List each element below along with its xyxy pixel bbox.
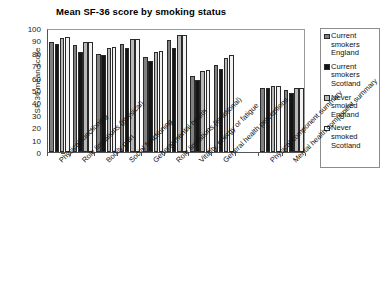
y-axis: SF-36 mean score 1009080706050403020100 [18, 24, 44, 158]
chart-title: Mean SF-36 score by smoking status [56, 6, 226, 17]
bar [73, 45, 78, 152]
bar-group [48, 30, 71, 152]
y-tick-label: 50 [32, 87, 41, 96]
x-tick-mark [258, 153, 259, 156]
x-tick-mark [164, 153, 165, 156]
bar [60, 38, 65, 152]
bar [49, 42, 54, 152]
y-tick-label: 90 [32, 37, 41, 46]
bar [55, 44, 60, 152]
legend-label: Never smoked Scotland [331, 124, 377, 150]
x-tick-mark [211, 153, 212, 156]
x-tick-mark [47, 153, 48, 156]
y-tick-label: 0 [37, 149, 41, 158]
y-tick-label: 80 [32, 49, 41, 58]
x-tick-mark [94, 153, 95, 156]
y-tick-label: 70 [32, 62, 41, 71]
legend-swatch-icon [324, 34, 330, 40]
bar [276, 86, 281, 152]
bar [65, 37, 70, 152]
bar [120, 44, 125, 152]
bar-group [259, 30, 282, 152]
x-tick-mark [235, 153, 236, 156]
bar [167, 40, 172, 152]
y-tick-label: 20 [32, 124, 41, 133]
x-tick-mark [141, 153, 142, 156]
legend-item: Current smokers England [324, 32, 377, 58]
y-tick-label: 100 [28, 25, 41, 34]
x-tick-mark [188, 153, 189, 156]
bar [299, 88, 304, 152]
legend-swatch-icon [324, 64, 330, 70]
x-tick-mark [117, 153, 118, 156]
x-tick-mark [70, 153, 71, 156]
x-tick-mark [282, 153, 283, 156]
x-tick-mark [305, 153, 306, 156]
y-tick-label: 10 [32, 136, 41, 145]
bar [135, 39, 140, 152]
y-tick-label: 40 [32, 99, 41, 108]
y-tick-label: 30 [32, 111, 41, 120]
chart-figure: Mean SF-36 score by smoking status SF-36… [0, 0, 384, 284]
legend-label: Current smokers England [331, 32, 377, 58]
y-tick-label: 60 [32, 74, 41, 83]
